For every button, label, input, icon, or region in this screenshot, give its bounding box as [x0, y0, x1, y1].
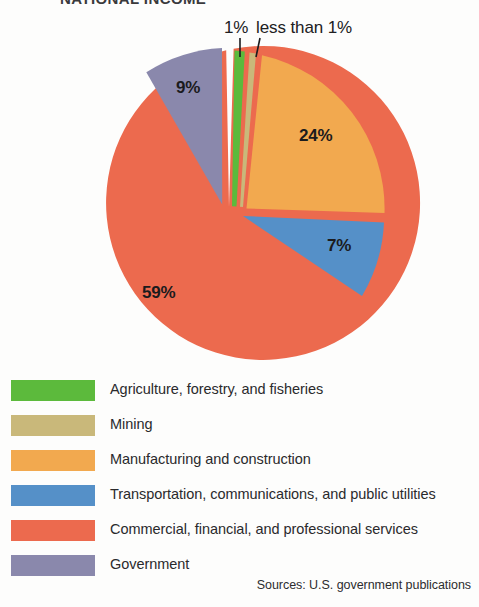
source-note: Sources: U.S. government publications	[257, 578, 471, 592]
slice-label-commercial: 59%	[142, 283, 175, 303]
slice-label-government: 9%	[176, 78, 200, 98]
legend-label-manufacturing: Manufacturing and construction	[110, 451, 311, 467]
legend-swatch-mining	[11, 415, 95, 436]
pie-chart-figure: NATIONAL INCOME 1% less than 1%	[0, 0, 479, 607]
callout-label-agriculture: 1%	[224, 18, 248, 38]
slice-label-manufacturing: 24%	[299, 126, 332, 146]
legend-item-mining: Mining	[0, 409, 479, 444]
callout-label-mining: less than 1%	[256, 18, 352, 38]
legend-item-commercial: Commercial, financial, and professional …	[0, 514, 479, 549]
legend-item-agriculture: Agriculture, forestry, and fisheries	[0, 374, 479, 409]
legend-swatch-agriculture	[11, 380, 95, 401]
legend-swatch-commercial	[11, 520, 95, 541]
legend-swatch-manufacturing	[11, 450, 95, 471]
legend-swatch-transportation	[11, 485, 95, 506]
legend-label-commercial: Commercial, financial, and professional …	[110, 521, 418, 537]
chart-plot-area: 1% less than 1% 24% 7% 59% 9%	[0, 0, 479, 372]
legend-label-transportation: Transportation, communications, and publ…	[110, 486, 436, 502]
legend-label-government: Government	[110, 556, 189, 572]
slice-label-transportation: 7%	[327, 236, 351, 256]
legend-label-mining: Mining	[110, 416, 152, 432]
legend-item-transportation: Transportation, communications, and publ…	[0, 479, 479, 514]
legend-label-agriculture: Agriculture, forestry, and fisheries	[110, 381, 323, 397]
chart-legend: Agriculture, forestry, and fisheries Min…	[0, 374, 479, 584]
pie-chart-svg	[0, 0, 479, 372]
legend-swatch-government	[11, 555, 95, 576]
legend-item-manufacturing: Manufacturing and construction	[0, 444, 479, 479]
